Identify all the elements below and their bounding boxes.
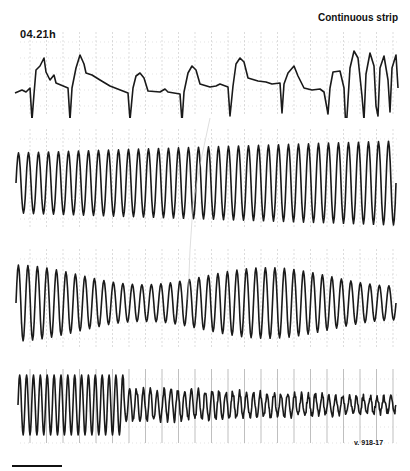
ecg-strip-3 <box>0 245 410 350</box>
ecg-trace <box>18 375 396 435</box>
ecg-strip-2 <box>0 125 410 230</box>
strip-title: Continuous strip <box>318 12 398 23</box>
ecg-trace <box>16 265 396 341</box>
scale-bar <box>12 465 62 467</box>
grid-lines <box>20 32 400 116</box>
reference-label: v. 918-17 <box>354 439 383 446</box>
ecg-trace <box>15 51 398 118</box>
ecg-strip-4 <box>0 365 410 445</box>
ecg-trace <box>16 141 396 225</box>
ecg-strip-1 <box>0 28 410 118</box>
